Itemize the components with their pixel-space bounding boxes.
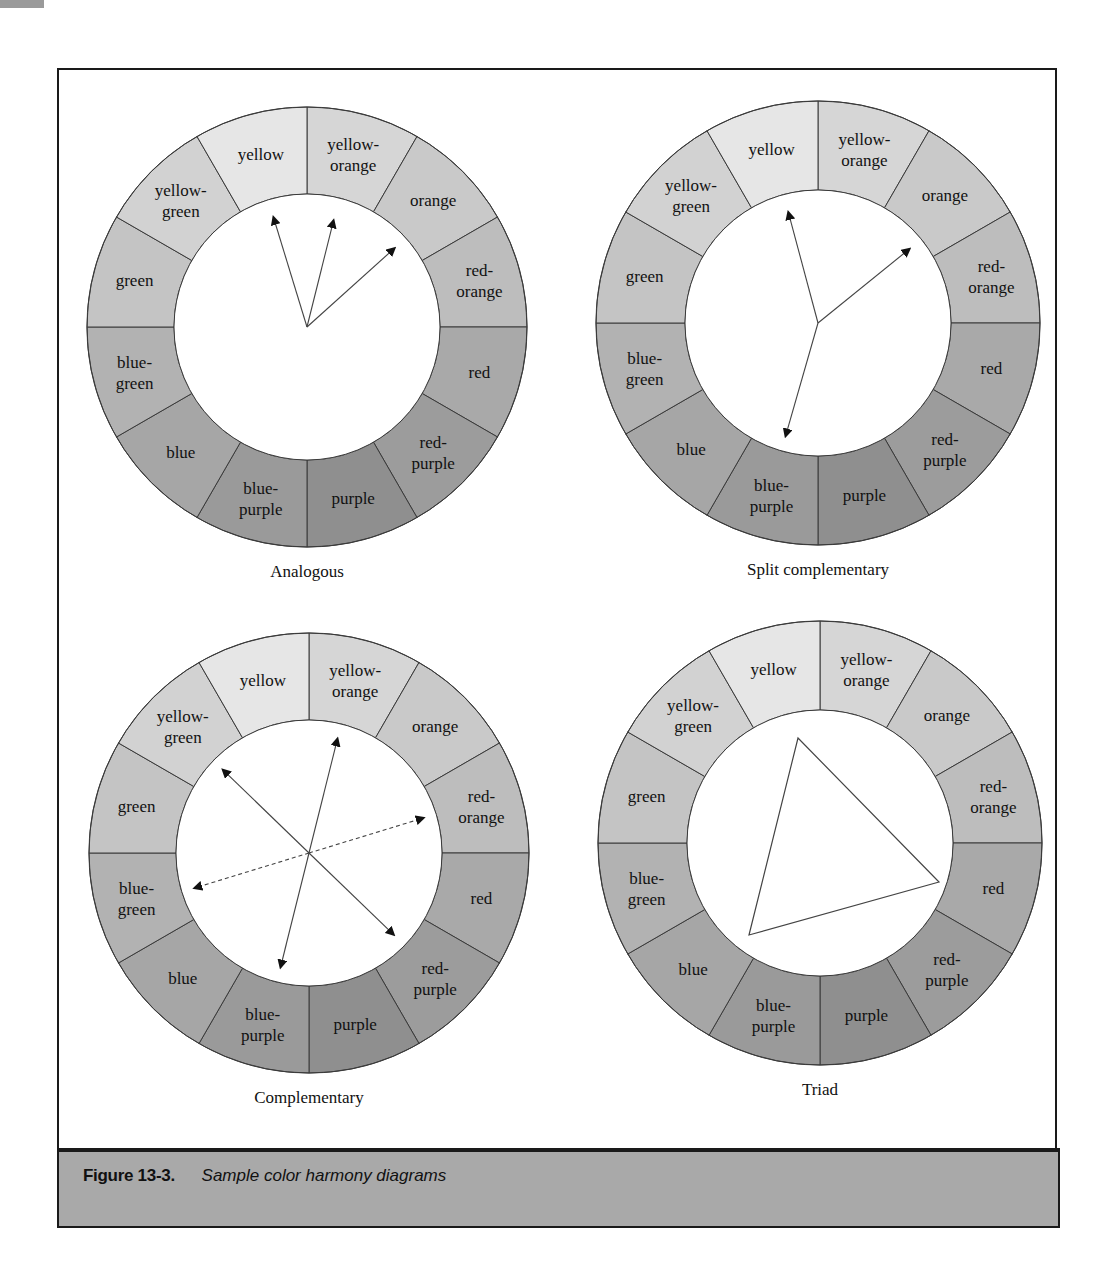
wheel-title-triad: Triad — [802, 1080, 839, 1099]
segment-label-blue: blue — [676, 440, 705, 459]
figure-title: Sample color harmony diagrams — [202, 1166, 447, 1185]
segment-label-red: red — [471, 889, 493, 908]
color-wheel-complementary: yellow-orangeorangered-orangeredred-purp… — [89, 633, 529, 1107]
figure-number: Figure 13-3. — [83, 1166, 175, 1185]
segment-label-green: green — [116, 271, 154, 290]
segment-label-orange: orange — [412, 717, 458, 736]
segment-label-purple: purple — [331, 489, 374, 508]
segment-label-blue: blue — [168, 969, 197, 988]
segment-label-green: green — [118, 797, 156, 816]
segment-label-yellow: yellow — [750, 660, 797, 679]
segment-label-purple: purple — [333, 1015, 376, 1034]
segment-label-orange: orange — [410, 191, 456, 210]
color-wheel-analogous: yellow-orangeorangered-orangeredred-purp… — [87, 107, 527, 581]
color-wheel-split-complementary: yellow-orangeorangered-orangeredred-purp… — [596, 101, 1040, 579]
segment-label-yellow: yellow — [238, 145, 285, 164]
figure-caption-band: Figure 13-3. Sample color harmony diagra… — [57, 1148, 1060, 1228]
segment-label-red: red — [981, 359, 1003, 378]
segment-label-yellow: yellow — [748, 140, 795, 159]
color-wheel-triad: yellow-orangeorangered-orangeredred-purp… — [598, 621, 1042, 1099]
wheel-title-analogous: Analogous — [270, 562, 344, 581]
segment-label-purple: purple — [843, 486, 886, 505]
segment-label-green: green — [628, 787, 666, 806]
segment-label-blue: blue — [166, 443, 195, 462]
segment-label-orange: orange — [922, 186, 968, 205]
segment-label-yellow: yellow — [240, 671, 287, 690]
segment-label-red: red — [983, 879, 1005, 898]
wheel-title-split-complementary: Split complementary — [747, 560, 890, 579]
segment-label-green: green — [626, 267, 664, 286]
color-harmony-diagrams: yellow-orangeorangered-orangeredred-purp… — [0, 0, 1118, 1268]
segment-label-blue: blue — [678, 960, 707, 979]
segment-label-orange: orange — [924, 706, 970, 725]
figure-caption: Figure 13-3. Sample color harmony diagra… — [83, 1166, 446, 1186]
segment-label-purple: purple — [845, 1006, 888, 1025]
wheel-title-complementary: Complementary — [254, 1088, 364, 1107]
segment-label-red: red — [469, 363, 491, 382]
